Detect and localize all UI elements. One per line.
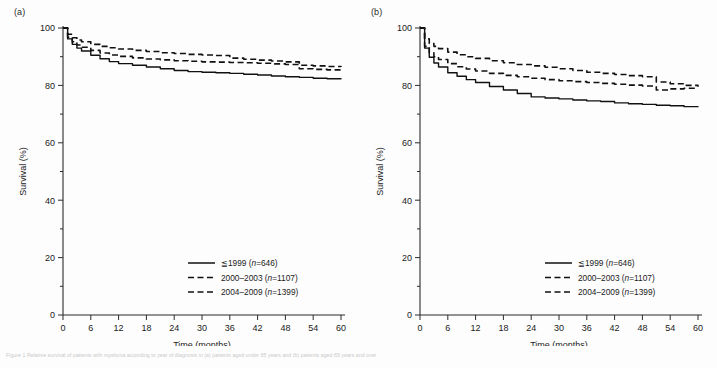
x-tick-label: 6 [445,323,450,333]
x-tick-label: 30 [197,323,207,333]
x-tick-label: 18 [141,323,151,333]
y-tick-label: 100 [40,23,55,33]
series-line-1 [420,28,698,87]
legend-label-2: 2004–2009 (n=1399) [221,287,299,297]
series-line-2 [63,28,341,70]
panel-a-plot: 02040608010006121824303642485460Time (mo… [0,0,358,346]
x-tick-label: 54 [665,323,675,333]
x-tick-label: 36 [582,323,592,333]
x-tick-label: 48 [280,323,290,333]
x-tick-label: 18 [498,323,508,333]
x-tick-label: 42 [253,323,263,333]
y-tick-label: 60 [402,138,412,148]
x-axis-title: Time (months) [530,340,588,346]
x-tick-label: 24 [169,323,179,333]
x-tick-label: 30 [554,323,564,333]
y-axis-title: Survival (%) [18,147,28,196]
y-tick-label: 20 [402,253,412,263]
legend-label-0: ≦1999 (n=646) [221,258,278,268]
panel-b-plot: 02040608010006121824303642485460Time (mo… [357,0,715,346]
x-tick-label: 36 [225,323,235,333]
x-tick-label: 54 [308,323,318,333]
legend-label-1: 2000–2003 (n=1107) [578,273,655,283]
y-tick-label: 80 [402,81,412,91]
x-tick-label: 60 [336,323,346,333]
x-tick-label: 6 [88,323,93,333]
y-tick-label: 0 [50,310,55,320]
y-tick-label: 20 [45,253,55,263]
x-tick-label: 12 [471,323,481,333]
x-tick-label: 60 [693,323,703,333]
x-axis-title: Time (months) [173,340,231,346]
figure-caption: Figure 1 Relative survival of patients w… [6,352,712,359]
y-tick-label: 60 [45,138,55,148]
series-line-0 [420,28,698,107]
x-tick-label: 48 [637,323,647,333]
y-tick-label: 80 [45,81,55,91]
y-tick-label: 40 [402,196,412,206]
y-tick-label: 40 [45,196,55,206]
figure-container: (a) 02040608010006121824303642485460Time… [0,0,717,368]
y-tick-label: 100 [397,23,412,33]
x-tick-label: 0 [417,323,422,333]
x-tick-label: 42 [610,323,620,333]
y-axis-title: Survival (%) [375,147,385,196]
x-tick-label: 0 [60,323,65,333]
x-tick-label: 12 [114,323,124,333]
panel-b: (b) 02040608010006121824303642485460Time… [357,0,715,346]
legend-label-0: ≦1999 (n=646) [578,258,635,268]
x-tick-label: 24 [526,323,536,333]
y-tick-label: 0 [407,310,412,320]
legend-label-1: 2000–2003 (n=1107) [221,273,298,283]
panel-a: (a) 02040608010006121824303642485460Time… [0,0,358,346]
legend-label-2: 2004–2009 (n=1399) [578,287,656,297]
